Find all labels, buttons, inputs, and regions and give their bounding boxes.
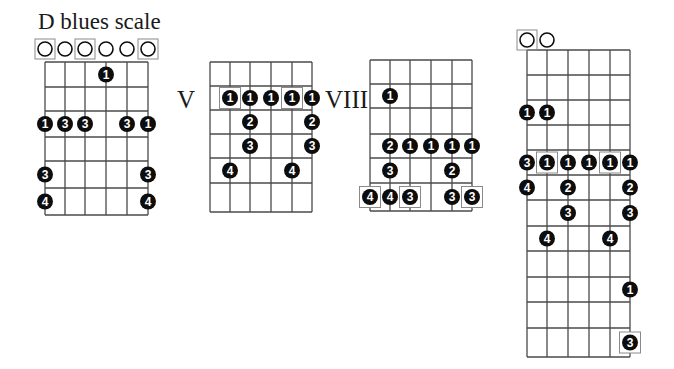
diagram-open-position: 1133313344 xyxy=(35,39,158,215)
finger-number: 1 xyxy=(544,106,551,120)
finger-number: 3 xyxy=(565,206,572,220)
finger-number: 1 xyxy=(42,117,49,131)
finger-number: 1 xyxy=(387,89,394,103)
finger-number: 1 xyxy=(247,91,254,105)
finger-number: 1 xyxy=(407,139,414,153)
open-string-icon xyxy=(540,33,554,47)
finger-number: 3 xyxy=(469,190,476,204)
finger-number: 1 xyxy=(586,156,593,170)
finger-number: 4 xyxy=(367,190,374,204)
finger-number: 3 xyxy=(309,139,316,153)
finger-number: 3 xyxy=(62,117,69,131)
finger-number: 3 xyxy=(82,117,89,131)
finger-number: 1 xyxy=(544,156,551,170)
finger-number: 1 xyxy=(449,139,456,153)
finger-number: 1 xyxy=(103,68,110,82)
diagram-fifth-position: 11111223344 xyxy=(210,62,320,212)
open-string-icon xyxy=(99,42,113,56)
finger-number: 4 xyxy=(227,164,234,178)
finger-number: 2 xyxy=(627,181,634,195)
finger-number: 1 xyxy=(289,91,296,105)
finger-number: 3 xyxy=(247,139,254,153)
finger-number: 1 xyxy=(227,91,234,105)
finger-number: 3 xyxy=(449,190,456,204)
finger-number: 1 xyxy=(309,91,316,105)
diagram-eighth-position: 1211113244333 xyxy=(360,60,483,211)
finger-number: 1 xyxy=(607,156,614,170)
finger-number: 1 xyxy=(469,139,476,153)
finger-number: 3 xyxy=(145,168,152,182)
finger-number: 4 xyxy=(387,190,394,204)
finger-number: 1 xyxy=(145,117,152,131)
finger-number: 4 xyxy=(42,195,49,209)
finger-number: 2 xyxy=(565,181,572,195)
finger-number: 2 xyxy=(309,115,316,129)
finger-number: 2 xyxy=(449,164,456,178)
finger-number: 3 xyxy=(387,164,394,178)
fretboard-diagrams: D blues scale V VIII 1133313344111112233… xyxy=(0,0,674,369)
finger-number: 1 xyxy=(627,156,634,170)
open-string-icon xyxy=(78,42,92,56)
finger-number: 1 xyxy=(428,139,435,153)
finger-number: 2 xyxy=(387,139,394,153)
open-string-icon xyxy=(38,42,52,56)
finger-number: 3 xyxy=(627,206,634,220)
finger-number: 3 xyxy=(124,117,131,131)
open-string-icon xyxy=(58,42,72,56)
finger-number: 3 xyxy=(627,336,634,350)
finger-number: 4 xyxy=(544,232,551,246)
finger-number: 3 xyxy=(407,190,414,204)
finger-number: 1 xyxy=(268,91,275,105)
finger-number: 1 xyxy=(524,106,531,120)
open-string-icon xyxy=(141,42,155,56)
finger-number: 3 xyxy=(524,156,531,170)
diagram-full-neck: 11311111422334413 xyxy=(517,30,641,357)
finger-number: 4 xyxy=(607,232,614,246)
finger-number: 4 xyxy=(289,164,296,178)
finger-number: 4 xyxy=(524,181,531,195)
finger-number: 4 xyxy=(145,195,152,209)
open-string-icon xyxy=(520,33,534,47)
finger-number: 2 xyxy=(247,115,254,129)
fretboard-canvas: 1133313344111112233441211113244333113111… xyxy=(0,0,674,369)
finger-number: 3 xyxy=(42,168,49,182)
finger-number: 1 xyxy=(565,156,572,170)
finger-number: 1 xyxy=(627,283,634,297)
open-string-icon xyxy=(120,42,134,56)
